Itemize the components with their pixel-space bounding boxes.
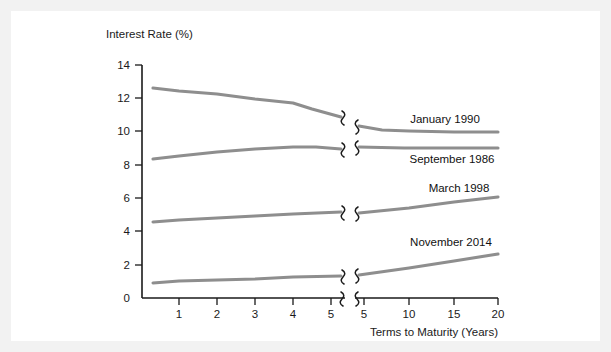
x-axis-title: Terms to Maturity (Years) xyxy=(370,326,498,338)
series-march-1998: March 1998 xyxy=(153,182,498,222)
y-tick-label-14: 14 xyxy=(117,59,130,71)
series-line-january-1990-left xyxy=(153,88,341,117)
series-november-2014: November 2014 xyxy=(153,236,498,284)
series-line-march-1998-left xyxy=(153,212,341,222)
series-line-november-2014-left xyxy=(153,276,341,283)
y-tick-label-8: 8 xyxy=(124,159,130,171)
y-tick-label-10: 10 xyxy=(117,125,130,137)
x-tick-label-left-2: 2 xyxy=(214,308,220,320)
series-line-march-1998-right xyxy=(359,197,498,213)
x-tick-label-right-20: 20 xyxy=(492,308,505,320)
x-tick-label-left-3: 3 xyxy=(252,308,258,320)
y-tick-label-0: 0 xyxy=(124,292,130,304)
x-tick-label-left-5: 5 xyxy=(328,308,334,320)
series-january-1990: January 1990 xyxy=(153,88,498,134)
series-label-september-1986: September 1986 xyxy=(409,153,494,165)
series-label-march-1998: March 1998 xyxy=(429,182,490,194)
y-tick-label-12: 12 xyxy=(117,92,130,104)
figure-frame: Interest Rate (%) 14 12 10 8 6 4 2 0 xyxy=(11,11,600,341)
series-line-january-1990-right xyxy=(359,126,498,132)
x-tick-label-left-1: 1 xyxy=(176,308,182,320)
x-axis-break-left-icon xyxy=(340,292,344,306)
series-line-november-2014-right xyxy=(359,254,498,275)
x-axis-ticks-left: 1 2 3 4 5 xyxy=(176,298,334,320)
series-line-september-1986-left xyxy=(153,147,341,159)
y-tick-label-2: 2 xyxy=(124,259,130,271)
x-axis-break-right-icon xyxy=(355,292,359,306)
series-label-january-1990: January 1990 xyxy=(410,113,480,125)
y-axis-ticks: 14 12 10 8 6 4 2 0 xyxy=(117,59,142,304)
x-tick-label-right-10: 10 xyxy=(403,308,416,320)
x-tick-label-left-4: 4 xyxy=(290,308,297,320)
y-tick-label-4: 4 xyxy=(124,225,131,237)
series-line-september-1986-right xyxy=(359,147,498,148)
y-tick-label-6: 6 xyxy=(124,192,130,204)
x-axis-break-marks xyxy=(340,292,359,306)
series-september-1986: September 1986 xyxy=(153,141,498,165)
series-label-november-2014: November 2014 xyxy=(410,236,492,248)
x-axis-ticks-right: 5 10 15 20 xyxy=(361,298,505,320)
chart-svg: Interest Rate (%) 14 12 10 8 6 4 2 0 xyxy=(11,11,600,341)
x-tick-label-right-15: 15 xyxy=(448,308,461,320)
interest-rate-yield-curve-chart: Interest Rate (%) 14 12 10 8 6 4 2 0 xyxy=(11,11,600,341)
x-tick-label-right-5: 5 xyxy=(361,308,367,320)
y-axis-title: Interest Rate (%) xyxy=(106,28,193,40)
